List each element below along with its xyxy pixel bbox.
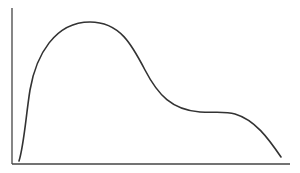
line-chart [0, 0, 300, 173]
data-curve [19, 22, 281, 161]
